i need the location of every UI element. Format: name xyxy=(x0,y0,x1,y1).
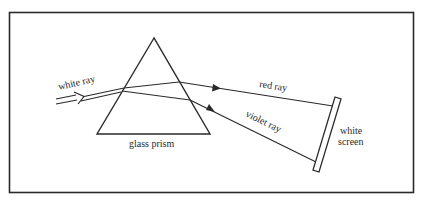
label-white-screen-line1: white xyxy=(340,125,363,136)
label-white-screen-line2: screen xyxy=(338,136,364,147)
rays-in-prism xyxy=(122,82,190,100)
red-ray xyxy=(179,82,333,106)
violet-ray-arrowhead-icon xyxy=(206,104,215,112)
label-red-ray: red ray xyxy=(259,78,288,93)
prism-dispersion-diagram: white ray glass prism red ray violet ray… xyxy=(0,0,421,203)
label-glass-prism: glass prism xyxy=(129,138,175,149)
glass-prism xyxy=(97,38,210,134)
white-screen xyxy=(313,97,341,172)
white-ray-incident xyxy=(56,88,124,104)
label-violet-ray: violet ray xyxy=(244,108,283,135)
label-white-ray: white ray xyxy=(57,73,96,92)
red-ray-arrowhead-icon xyxy=(212,84,221,92)
diagram-frame xyxy=(10,13,414,193)
